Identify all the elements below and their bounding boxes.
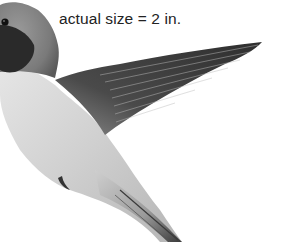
bird-eye bbox=[1, 18, 8, 25]
hummingbird-illustration bbox=[0, 0, 285, 242]
size-caption: actual size = 2 in. bbox=[59, 10, 181, 28]
figure: actual size = 2 in. t bbox=[0, 0, 285, 242]
